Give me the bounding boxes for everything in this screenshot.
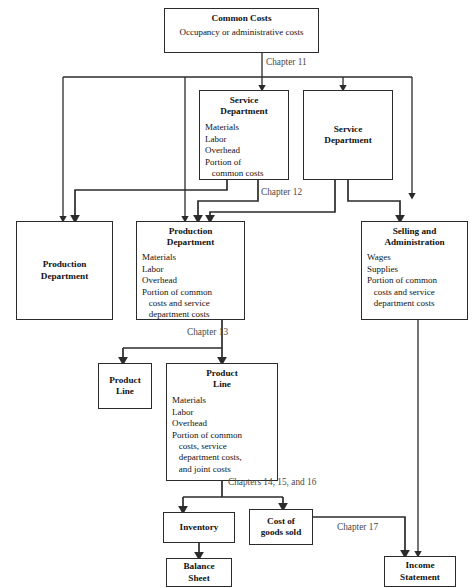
box-inventory: Inventory xyxy=(163,512,235,543)
service-detail-item-4: common costs xyxy=(205,168,283,179)
production-detail-item-5: department costs xyxy=(142,309,239,320)
cogs-title-line1: Cost of xyxy=(267,516,295,527)
balance-sheet-title-line2: Sheet xyxy=(188,573,209,584)
common-costs-title: Common Costs xyxy=(170,13,313,24)
wire-servicedetail-to-production-detail xyxy=(198,180,258,219)
box-income-statement: Income Statement xyxy=(384,556,456,587)
service-detail-item-1: Labor xyxy=(205,134,283,145)
wire-serviceplain-to-selling xyxy=(348,180,400,219)
box-product-line-plain: Product Line xyxy=(98,363,152,409)
selling-item-3: costs and service xyxy=(367,287,462,298)
selling-item-2: Portion of common xyxy=(367,275,462,286)
inventory-title: Inventory xyxy=(180,522,219,533)
box-cost-of-goods-sold: Cost of goods sold xyxy=(249,509,313,545)
product-line-detail-item-2: Overhead xyxy=(172,418,272,429)
wire-servicedetail-to-production-left xyxy=(75,180,227,219)
label-chapter-12: Chapter 12 xyxy=(261,187,302,197)
product-line-detail-title-line1: Product xyxy=(172,368,272,379)
production-detail-item-2: Overhead xyxy=(142,275,239,286)
box-selling-administration: Selling and Administration Wages Supplie… xyxy=(361,221,468,320)
cost-flow-diagram: Common Costs Occupancy or administrative… xyxy=(0,0,475,588)
product-line-detail-item-4: costs, service xyxy=(172,441,272,452)
production-detail-title-line2: Department xyxy=(142,237,239,248)
production-plain-title-line2: Department xyxy=(41,271,88,282)
selling-title-line1: Selling and xyxy=(367,226,462,237)
selling-item-0: Wages xyxy=(367,252,462,263)
production-detail-item-3: Portion of common xyxy=(142,287,239,298)
product-line-detail-item-3: Portion of common xyxy=(172,430,272,441)
selling-item-1: Supplies xyxy=(367,264,462,275)
income-statement-title-line2: Statement xyxy=(400,572,440,583)
box-service-department-plain: Service Department xyxy=(303,90,393,180)
common-costs-subtitle: Occupancy or administrative costs xyxy=(170,27,313,39)
box-service-department-detail: Service Department Materials Labor Overh… xyxy=(199,90,289,180)
cogs-title-line2: goods sold xyxy=(261,527,302,538)
production-plain-title-line1: Production xyxy=(43,259,87,270)
service-detail-item-3: Portion of xyxy=(205,157,283,168)
product-line-detail-title-line2: Line xyxy=(172,379,272,390)
label-chapter-13: Chapter 13 xyxy=(187,327,228,337)
label-chapter-17: Chapter 17 xyxy=(337,522,378,532)
wire-serviceplain-to-production-detail xyxy=(210,180,335,219)
balance-sheet-title-line1: Balance xyxy=(183,561,214,572)
box-production-department-detail: Production Department Materials Labor Ov… xyxy=(136,221,245,320)
service-plain-title-line2: Department xyxy=(324,135,371,146)
service-detail-title-line1: Service xyxy=(205,95,283,106)
label-chapters-14-16: Chapters 14, 15, and 16 xyxy=(228,477,316,487)
product-line-detail-item-0: Materials xyxy=(172,395,272,406)
product-line-detail-item-6: and joint costs xyxy=(172,464,272,475)
box-balance-sheet: Balance Sheet xyxy=(166,558,232,587)
production-detail-item-1: Labor xyxy=(142,264,239,275)
service-plain-title-line1: Service xyxy=(334,124,363,135)
box-product-line-detail: Product Line Materials Labor Overhead Po… xyxy=(166,363,278,481)
product-line-plain-title-line1: Product xyxy=(109,375,140,386)
box-production-department-plain: Production Department xyxy=(16,221,113,320)
production-detail-item-4: costs and service xyxy=(142,298,239,309)
label-chapter-11: Chapter 11 xyxy=(266,57,307,67)
production-detail-title-line1: Production xyxy=(142,226,239,237)
box-common-costs: Common Costs Occupancy or administrative… xyxy=(164,8,319,53)
income-statement-title-line1: Income xyxy=(405,560,434,571)
production-detail-item-0: Materials xyxy=(142,252,239,263)
product-line-detail-item-5: department costs, xyxy=(172,452,272,463)
product-line-detail-item-1: Labor xyxy=(172,407,272,418)
service-detail-item-2: Overhead xyxy=(205,145,283,156)
selling-item-4: department costs xyxy=(367,298,462,309)
selling-title-line2: Administration xyxy=(367,237,462,248)
service-detail-item-0: Materials xyxy=(205,122,283,133)
service-detail-title-line2: Department xyxy=(205,106,283,117)
product-line-plain-title-line2: Line xyxy=(116,386,134,397)
